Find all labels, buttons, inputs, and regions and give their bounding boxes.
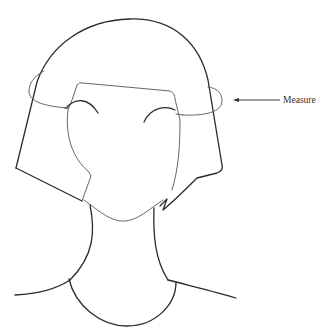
- measure-line-right-end: [176, 114, 183, 115]
- hair-outline: [16, 19, 222, 210]
- hair-left-flap: [16, 168, 82, 201]
- bangs-outline: [67, 83, 180, 201]
- jaw-chin: [84, 200, 163, 221]
- measure-loop-right: [183, 87, 222, 115]
- neck-right: [154, 208, 168, 280]
- measure-arrow-head-icon: [233, 98, 239, 102]
- collar-neckline: [69, 279, 176, 326]
- right-eye-arc: [144, 108, 175, 122]
- shoulder-left: [15, 280, 70, 295]
- head-measurement-diagram: Measure: [0, 0, 335, 336]
- shoulder-right: [168, 280, 236, 298]
- measure-label: Measure: [283, 95, 316, 105]
- neck-left: [70, 205, 93, 280]
